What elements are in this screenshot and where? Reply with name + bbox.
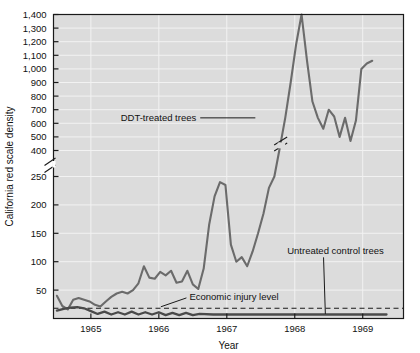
y-tick-label-800: 800: [31, 91, 47, 102]
y-tick-label-100: 100: [31, 256, 47, 267]
y-tick-label-500: 500: [31, 131, 47, 142]
y-tick-label-900: 900: [31, 77, 47, 88]
plot-background: [54, 15, 404, 319]
y-axis-title: California red scale density: [4, 106, 15, 226]
x-tick-label-1965: 1965: [80, 323, 101, 334]
y-tick-label-200: 200: [31, 199, 47, 210]
red-scale-density-line-chart: 501001502002504005006007008009001,0001,1…: [0, 0, 420, 353]
y-tick-label-150: 150: [31, 228, 47, 239]
y-tick-label-1400: 1,400: [23, 9, 47, 20]
y-tick-label-50: 50: [36, 285, 47, 296]
x-axis-title: Year: [218, 340, 239, 351]
y-tick-label-1000: 1,000: [23, 63, 47, 74]
y-tick-label-1100: 1,100: [23, 50, 47, 61]
chart-container: 501001502002504005006007008009001,0001,1…: [0, 0, 420, 353]
y-tick-label-1200: 1,200: [23, 36, 47, 47]
annotation-untreated-control-trees: Untreated control trees: [287, 245, 384, 256]
y-tick-label-700: 700: [31, 104, 47, 115]
x-tick-label-1969: 1969: [352, 323, 373, 334]
y-tick-label-600: 600: [31, 118, 47, 129]
y-axis-break-gap: [52, 161, 55, 168]
y-tick-label-250: 250: [31, 171, 47, 182]
annotation-economic-injury-level: Economic injury level: [189, 291, 278, 302]
x-tick-label-1966: 1966: [148, 323, 169, 334]
annotation-ddt-treated-trees: DDT-treated trees: [121, 112, 197, 123]
y-tick-label-400: 400: [31, 145, 47, 156]
series-break-gap: [278, 142, 286, 148]
x-tick-label-1967: 1967: [216, 323, 237, 334]
x-tick-label-1968: 1968: [284, 323, 305, 334]
y-tick-label-1300: 1,300: [23, 23, 47, 34]
